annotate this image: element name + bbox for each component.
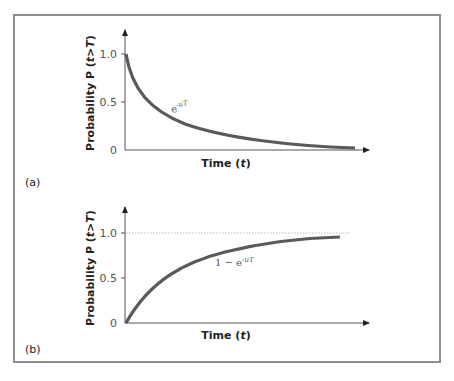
decay-curve — [126, 54, 355, 148]
x-axis-label-a: Time (t) — [201, 157, 250, 170]
y-axis-label-a: Probability P (t>T) — [84, 35, 97, 151]
panel-b: 1.0 0.5 0 1 − e-uT Probability P (t>T) T… — [25, 207, 369, 356]
growth-curve — [126, 237, 340, 323]
y-tick-label: 1.0 — [100, 227, 118, 240]
curve-label-b: 1 − e-uT — [215, 256, 255, 268]
figure-canvas: 1.0 0.5 0 e-uT Probability P (t>T) Time … — [0, 0, 454, 381]
x-axis-label-b: Time (t) — [201, 329, 250, 342]
y-tick-label: 1.0 — [100, 48, 118, 61]
curve-label-a: e-uT — [170, 99, 191, 115]
y-tick-label: 0.5 — [100, 96, 118, 109]
panel-label-a: (a) — [25, 176, 40, 189]
y-tick-label: 0.5 — [100, 272, 118, 285]
panel-label-b: (b) — [25, 343, 41, 356]
panel-a: 1.0 0.5 0 e-uT Probability P (t>T) Time … — [25, 30, 369, 189]
y-tick-label: 0 — [110, 144, 117, 157]
y-tick-label: 0 — [110, 317, 117, 330]
y-axis-label-b: Probability P (t>T) — [84, 210, 97, 326]
